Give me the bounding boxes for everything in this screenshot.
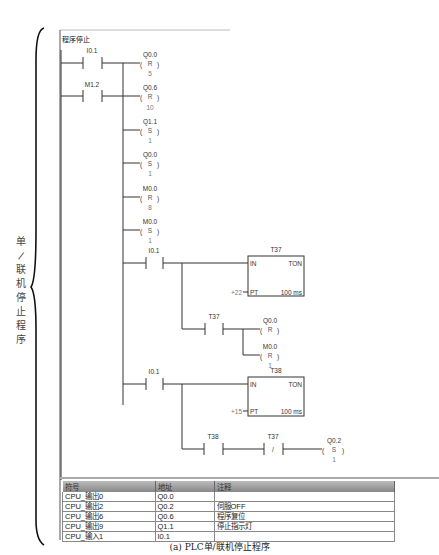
svg-text:1: 1 (332, 456, 336, 463)
svg-text:PT: PT (250, 289, 258, 296)
coil: M0.0 (R) 1 (260, 343, 279, 369)
coil: M0.0 (R) 8 (140, 185, 159, 211)
svg-text:100 ms: 100 ms (281, 289, 303, 296)
col-symbol: 符号 (63, 481, 156, 492)
svg-text:R: R (148, 60, 153, 67)
svg-text:): ) (157, 161, 159, 169)
coil: Q0.0 (R) (260, 317, 279, 335)
svg-text:IN: IN (250, 381, 257, 388)
svg-text:8: 8 (148, 204, 152, 211)
svg-text:(: ( (260, 353, 263, 361)
svg-text:Q0.2: Q0.2 (327, 437, 341, 445)
svg-text:100 ms: 100 ms (281, 408, 303, 415)
svg-text:+15: +15 (231, 408, 242, 415)
svg-text:): ) (277, 353, 279, 361)
svg-text:Q0.6: Q0.6 (143, 84, 157, 92)
table-row: CPU_输出9Q1.1停止指示灯 (63, 522, 395, 532)
svg-text:Q0.0: Q0.0 (263, 317, 277, 325)
coil: Q0.6 (R) 10 (140, 84, 159, 111)
svg-text:R: R (268, 326, 273, 333)
svg-text:S: S (148, 127, 153, 134)
nc-contact-slash: / (272, 446, 274, 453)
svg-text:S: S (332, 446, 337, 453)
symbol-table: 符号 地址 注释 CPU_输出0Q0.0 CPU_输出2Q0.2伺服OFF CP… (62, 481, 395, 542)
svg-text:(: ( (140, 161, 143, 169)
svg-text:(: ( (140, 94, 143, 102)
contact-label: T38 (207, 433, 219, 440)
svg-text:S: S (148, 160, 153, 167)
svg-text:): ) (277, 327, 279, 335)
contact-label: T37 (267, 433, 279, 440)
table-row: CPU_输出2Q0.2伺服OFF (63, 502, 395, 512)
coil: M0.0 (S) 1 (140, 218, 159, 244)
svg-text:(: ( (140, 228, 143, 236)
svg-text:M0.0: M0.0 (143, 185, 158, 192)
svg-text:Q0.0: Q0.0 (143, 51, 157, 59)
svg-text:1: 1 (148, 237, 152, 244)
svg-text:1: 1 (148, 170, 152, 177)
figure-caption: (a) PLC单/联机停止程序 (0, 540, 439, 553)
table-row: CPU_输出0Q0.0 (63, 492, 395, 502)
svg-text:Q1.1: Q1.1 (143, 118, 157, 126)
network-title: 程序停止 (62, 34, 90, 44)
svg-text:10: 10 (146, 104, 154, 111)
svg-text:S: S (148, 227, 153, 234)
svg-text:Q0.0: Q0.0 (143, 151, 157, 159)
svg-text:5: 5 (148, 70, 152, 77)
svg-text:+22: +22 (231, 289, 242, 296)
svg-text:(: ( (140, 195, 143, 203)
table-row: CPU_输出6Q0.6程序复位 (63, 512, 395, 522)
svg-text:(: ( (322, 447, 325, 455)
svg-text:R: R (148, 194, 153, 201)
contact-label: I0.1 (149, 247, 160, 254)
contact-label: I0.1 (87, 47, 98, 54)
svg-text:(: ( (140, 128, 143, 136)
svg-text:1: 1 (148, 137, 152, 144)
svg-text:): ) (342, 447, 344, 455)
coil: Q0.0 (S) 1 (140, 151, 159, 177)
svg-text:T38: T38 (270, 367, 282, 374)
svg-text:): ) (157, 128, 159, 136)
coil: Q0.0 (R) 5 (140, 51, 159, 77)
svg-text:T37: T37 (270, 246, 282, 253)
svg-text:TON: TON (288, 381, 302, 388)
contact-label: I0.1 (149, 368, 160, 375)
svg-text:(: ( (140, 61, 143, 69)
svg-text:): ) (157, 61, 159, 69)
svg-text:): ) (157, 228, 159, 236)
coil: Q1.1 (S) 1 (140, 118, 159, 144)
svg-text:PT: PT (250, 408, 258, 415)
svg-text:M0.0: M0.0 (143, 218, 158, 225)
svg-text:(: ( (260, 327, 263, 335)
ladder-diagram: I0.1 M1.2 I0.1 T37 I0.1 T38 T37 / Q0.0 (… (0, 0, 439, 555)
svg-text:R: R (268, 352, 273, 359)
contact-label: M1.2 (85, 81, 100, 88)
svg-text:R: R (148, 93, 153, 100)
svg-text:): ) (157, 94, 159, 102)
svg-text:TON: TON (288, 260, 302, 267)
coil: Q0.2 (S) 1 (322, 437, 344, 463)
col-address: 地址 (155, 481, 214, 492)
svg-text:IN: IN (250, 260, 257, 267)
col-comment: 注释 (214, 481, 395, 492)
contact-label: T37 (208, 313, 220, 320)
svg-text:): ) (157, 195, 159, 203)
svg-text:M0.0: M0.0 (263, 343, 278, 350)
